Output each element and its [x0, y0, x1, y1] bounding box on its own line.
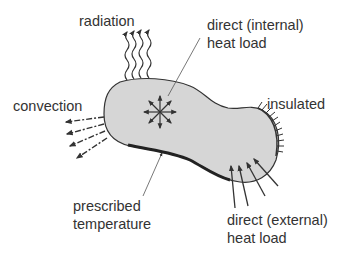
- internal-heat-load-label-line2: heat load: [207, 35, 267, 52]
- convection-arrows: [66, 117, 107, 158]
- internal-heat-load-label-line1: direct (internal): [207, 17, 304, 34]
- prescribed-temperature-label-line1: prescribed: [73, 198, 141, 215]
- prescribed-temperature-label-line2: temperature: [73, 216, 151, 233]
- radiation-label: radiation: [79, 13, 135, 30]
- body-shape: [104, 79, 279, 183]
- external-heat-load-label-line2: heat load: [227, 230, 287, 247]
- insulated-label: insulated: [267, 96, 325, 113]
- external-heat-load-label-line1: direct (external): [227, 212, 328, 229]
- radiation-arrows: [125, 30, 151, 80]
- prescribed-leader-line: [143, 153, 162, 196]
- convection-label: convection: [13, 98, 82, 115]
